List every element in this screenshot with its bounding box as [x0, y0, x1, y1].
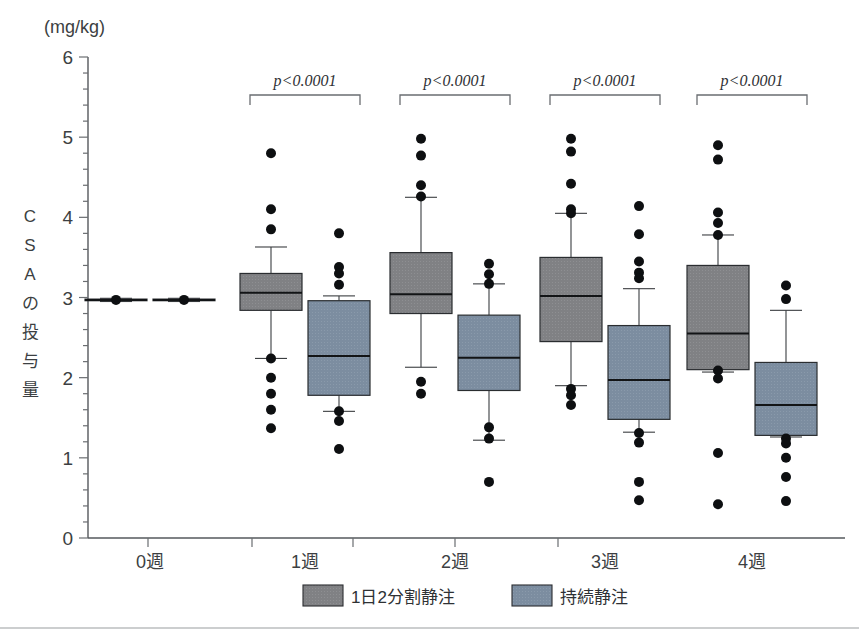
outlier-point [266, 204, 276, 214]
y-axis-title-char: 量 [22, 381, 39, 400]
outlier-point [713, 373, 723, 383]
boxplot-chart: 0123456(mg/kg)CSAの投与量0週1週2週3週4週 p<0.0001… [0, 0, 859, 636]
significance-bracket [697, 95, 807, 105]
outlier-point [781, 496, 791, 506]
outlier-point [566, 147, 576, 157]
outlier-point [416, 151, 426, 161]
outlier-point [266, 353, 276, 363]
outlier-point [566, 390, 576, 400]
y-axis-title-char: C [24, 207, 36, 226]
x-axis-tick-label: 0週 [136, 552, 164, 572]
box-plot-blue [153, 295, 215, 305]
outlier-point [634, 201, 644, 211]
outlier-point [781, 472, 791, 482]
box-iqr [608, 326, 670, 420]
outlier-point [713, 155, 723, 165]
y-axis-tick-label: 1 [62, 448, 73, 469]
outlier-point [713, 499, 723, 509]
outlier-point [334, 444, 344, 454]
outlier-point [416, 389, 426, 399]
legend-swatch-2 [512, 585, 552, 606]
chart-figure: 0123456(mg/kg)CSAの投与量0週1週2週3週4週 p<0.0001… [0, 0, 859, 636]
outlier-point [334, 406, 344, 416]
outlier-point [634, 273, 644, 283]
outlier-point [781, 280, 791, 290]
outlier-point [634, 256, 644, 266]
outlier-point [416, 134, 426, 144]
y-axis-unit-label: (mg/kg) [44, 17, 105, 37]
y-axis-title-char: A [24, 265, 36, 284]
y-axis-tick-label: 5 [62, 127, 73, 148]
outlier-point [111, 295, 121, 305]
x-axis-tick-label: 4週 [738, 552, 766, 572]
outlier-point [266, 148, 276, 158]
outlier-point [634, 495, 644, 505]
box-iqr [390, 253, 452, 314]
outlier-point [634, 428, 644, 438]
p-value-label: p<0.0001 [273, 72, 337, 90]
y-axis-title-char: 投 [22, 323, 39, 342]
outlier-point [713, 448, 723, 458]
outlier-point [416, 180, 426, 190]
outlier-point [484, 422, 494, 432]
y-axis-tick-label: 2 [62, 368, 73, 389]
outlier-point [484, 269, 494, 279]
outlier-point [713, 218, 723, 228]
outlier-point [416, 191, 426, 201]
legend-label-1: 1日2分割静注 [351, 588, 455, 607]
x-axis-tick-label: 2週 [441, 552, 469, 572]
box-iqr [687, 265, 749, 369]
outlier-point [334, 280, 344, 290]
box-iqr [458, 315, 520, 390]
outlier-point [266, 373, 276, 383]
box-plot-gray [540, 134, 602, 410]
y-axis-tick-label: 4 [62, 207, 73, 228]
outlier-point [334, 228, 344, 238]
box-plot-blue [755, 280, 817, 506]
outlier-point [566, 400, 576, 410]
box-plot-gray [85, 295, 147, 305]
outlier-point [781, 453, 791, 463]
box-iqr [540, 257, 602, 341]
y-axis-tick-label: 0 [62, 528, 73, 549]
outlier-point [266, 423, 276, 433]
x-axis-tick-label: 1週 [291, 552, 319, 572]
outlier-point [566, 208, 576, 218]
p-value-label: p<0.0001 [423, 72, 487, 90]
legend-swatch-1 [303, 585, 343, 606]
p-value-label: p<0.0001 [720, 72, 784, 90]
outlier-point [266, 389, 276, 399]
outlier-point [416, 377, 426, 387]
y-axis-tick-label: 3 [62, 288, 73, 309]
box-iqr [755, 362, 817, 435]
x-axis-tick-label: 3週 [591, 552, 619, 572]
box-plot-gray [390, 134, 452, 399]
box-plot-blue [308, 228, 370, 454]
box-iqr [308, 301, 370, 396]
outlier-point [334, 416, 344, 426]
outlier-point [781, 438, 791, 448]
outlier-point [713, 230, 723, 240]
box-plot-blue [458, 259, 520, 487]
outlier-point [484, 279, 494, 289]
y-axis-tick-label: 6 [62, 47, 73, 68]
outlier-point [566, 179, 576, 189]
significance-bracket [550, 95, 660, 105]
outlier-point [179, 295, 189, 305]
outlier-point [566, 134, 576, 144]
outlier-point [713, 140, 723, 150]
box-plot-gray [687, 140, 749, 509]
y-axis-title-char: 与 [22, 352, 39, 371]
p-value-label: p<0.0001 [573, 72, 637, 90]
outlier-point [266, 224, 276, 234]
outlier-point [266, 405, 276, 415]
box-plot-gray [240, 148, 302, 433]
legend-label-2: 持続静注 [560, 588, 628, 607]
outlier-point [334, 268, 344, 278]
box-plot-blue [608, 201, 670, 505]
significance-bracket [250, 95, 360, 105]
y-axis-title-char: の [22, 294, 39, 313]
outlier-point [713, 208, 723, 218]
outlier-point [634, 229, 644, 239]
outlier-point [634, 438, 644, 448]
